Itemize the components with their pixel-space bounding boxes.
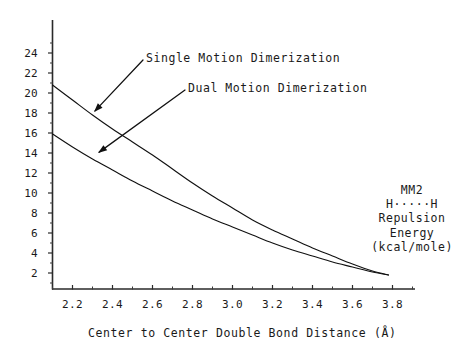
- mm2-corner-note: MM2H·····HRepulsionEnergy(kcal/mole): [366, 183, 458, 254]
- y-tick-label: 18: [12, 108, 38, 119]
- x-tick-label: 2.4: [93, 299, 133, 310]
- annotation-label-single-motion: Single Motion Dimerization: [146, 52, 340, 65]
- y-tick-label: 12: [12, 168, 38, 179]
- series-line-dual-motion: [53, 134, 389, 275]
- annotation-arrow-head: [98, 145, 107, 153]
- x-axis-title: Center to Center Double Bond Distance (Å…: [88, 327, 396, 340]
- data-series-group: [53, 85, 389, 275]
- y-tick-label: 14: [12, 148, 38, 159]
- mm2-note-line: (kcal/mole): [366, 240, 458, 254]
- x-tick-label: 3.6: [333, 299, 373, 310]
- y-tick-label: 22: [12, 68, 38, 79]
- annotation-arrows-group: [94, 60, 185, 153]
- series-line-single-motion: [53, 85, 389, 275]
- mm2-note-line: Energy: [366, 226, 458, 240]
- annotation-arrow-shaft: [99, 90, 185, 152]
- y-tick-label: 24: [12, 48, 38, 59]
- x-tick-label: 3.0: [213, 299, 253, 310]
- mm2-note-line: Repulsion: [366, 211, 458, 225]
- y-tick-label: 10: [12, 188, 38, 199]
- y-tick-label: 16: [12, 128, 38, 139]
- y-tick-label: 4: [12, 248, 38, 259]
- chart-figure: 24681012141618202224 2.22.42.62.83.03.23…: [0, 0, 461, 353]
- y-tick-label: 6: [12, 228, 38, 239]
- x-tick-label: 2.8: [173, 299, 213, 310]
- annotation-label-dual-motion: Dual Motion Dimerization: [188, 82, 367, 95]
- x-tick-label: 2.6: [133, 299, 173, 310]
- x-tick-label: 3.8: [373, 299, 413, 310]
- x-tick-label: 3.4: [293, 299, 333, 310]
- x-tick-label: 2.2: [53, 299, 93, 310]
- mm2-note-line: H·····H: [366, 197, 458, 211]
- y-tick-label: 8: [12, 208, 38, 219]
- y-tick-label: 20: [12, 88, 38, 99]
- annotation-arrow-shaft: [95, 60, 143, 111]
- x-tick-label: 3.2: [253, 299, 293, 310]
- y-tick-label: 2: [12, 268, 38, 279]
- mm2-note-line: MM2: [366, 183, 458, 197]
